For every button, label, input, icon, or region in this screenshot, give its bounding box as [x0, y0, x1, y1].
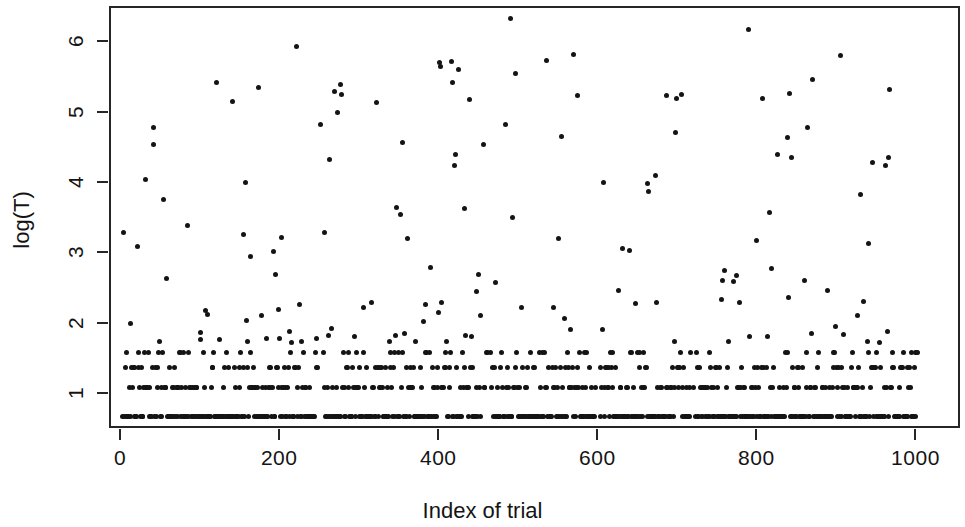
data-point: [364, 365, 369, 370]
data-point: [407, 414, 412, 419]
data-point: [616, 288, 621, 293]
data-point: [217, 337, 222, 342]
data-point: [654, 300, 659, 305]
data-point: [498, 365, 503, 370]
data-point: [124, 350, 129, 355]
data-point: [613, 365, 618, 370]
data-point: [646, 189, 651, 194]
data-point: [201, 350, 206, 355]
y-tick-mark: [97, 251, 108, 253]
data-point: [435, 365, 440, 370]
data-point: [121, 230, 126, 235]
data-point: [558, 365, 563, 370]
data-point: [627, 248, 632, 253]
data-point: [756, 385, 761, 390]
data-point: [488, 350, 493, 355]
data-point: [883, 163, 888, 168]
data-point: [285, 385, 290, 390]
data-point: [270, 385, 275, 390]
data-point: [136, 350, 141, 355]
data-point: [405, 236, 410, 241]
data-point: [130, 385, 135, 390]
data-point: [786, 295, 791, 300]
data-point: [559, 134, 564, 139]
data-point: [288, 350, 293, 355]
data-point: [679, 92, 684, 97]
data-point: [767, 210, 772, 215]
data-point: [151, 142, 156, 147]
data-point: [459, 414, 464, 419]
data-point: [913, 414, 918, 419]
y-tick-label-text: 4: [62, 168, 90, 196]
y-tick-label-text: 5: [62, 98, 90, 126]
data-point: [620, 246, 625, 251]
data-point: [583, 385, 588, 390]
data-point: [625, 385, 630, 390]
data-point: [326, 333, 331, 338]
data-point: [610, 385, 615, 390]
data-point: [687, 414, 692, 419]
data-point: [805, 125, 810, 130]
data-point: [734, 273, 739, 278]
data-point: [159, 414, 164, 419]
data-point: [722, 268, 727, 273]
data-point: [845, 385, 850, 390]
data-point: [769, 266, 774, 271]
data-point: [519, 305, 524, 310]
data-point: [248, 254, 253, 259]
data-point: [325, 385, 330, 390]
data-point: [135, 244, 140, 249]
data-point: [601, 180, 606, 185]
data-point: [610, 350, 615, 355]
data-point: [517, 385, 522, 390]
data-point: [463, 333, 468, 338]
data-point: [155, 365, 160, 370]
data-point: [419, 385, 424, 390]
data-point: [645, 181, 650, 186]
data-point: [482, 385, 487, 390]
y-tick-mark: [97, 111, 108, 113]
data-point: [411, 365, 416, 370]
data-point: [146, 350, 151, 355]
x-tick-label: 600: [579, 446, 616, 470]
data-point: [618, 385, 623, 390]
data-point: [571, 52, 576, 57]
data-point: [230, 99, 235, 104]
data-point: [157, 339, 162, 344]
data-point: [513, 365, 518, 370]
data-point: [400, 350, 405, 355]
data-point: [327, 157, 332, 162]
data-point: [771, 365, 776, 370]
data-point: [332, 89, 337, 94]
data-point: [775, 152, 780, 157]
data-point: [273, 272, 278, 277]
data-point: [434, 414, 439, 419]
data-point: [678, 350, 683, 355]
data-point: [441, 385, 446, 390]
data-point: [633, 301, 638, 306]
data-point: [493, 280, 498, 285]
data-point: [707, 350, 712, 355]
data-point: [226, 365, 231, 370]
y-tick-label: 6: [62, 27, 90, 55]
data-point: [565, 350, 570, 355]
data-point: [532, 365, 537, 370]
data-point: [564, 414, 569, 419]
data-point: [186, 350, 191, 355]
data-point: [287, 329, 292, 334]
y-tick-mark: [97, 392, 108, 394]
data-point: [436, 310, 441, 315]
data-point: [873, 365, 878, 370]
data-point: [205, 312, 210, 317]
data-point: [264, 336, 269, 341]
data-point: [448, 350, 453, 355]
data-point: [297, 302, 302, 307]
data-point: [841, 332, 846, 337]
data-point: [301, 350, 306, 355]
data-point: [849, 365, 854, 370]
data-point: [334, 385, 339, 390]
x-tick-label: 800: [738, 446, 775, 470]
data-point: [850, 350, 855, 355]
data-point: [421, 319, 426, 324]
data-point: [275, 365, 280, 370]
